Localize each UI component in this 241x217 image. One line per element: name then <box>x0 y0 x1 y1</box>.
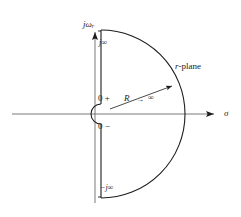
origin-upper-label: 0 + <box>98 94 110 103</box>
radius-symbol-label: R <box>124 94 130 103</box>
origin-lower-label: 0 − <box>98 122 110 131</box>
top-endpoint-label: j∞ <box>99 39 107 47</box>
figure-canvas: jωr j∞ 0 + R → ∞ 0 − −j∞ r-plane σ <box>0 0 241 217</box>
radius-arrow-label: → <box>136 96 144 104</box>
plane-label: r-plane <box>175 62 201 71</box>
jomega-axis-label: jωr <box>83 20 94 29</box>
bottom-endpoint-label: −j∞ <box>100 184 113 192</box>
sigma-axis-label: σ <box>224 109 228 118</box>
nyquist-contour-figure <box>0 0 241 217</box>
radius-value-label: ∞ <box>148 94 154 102</box>
